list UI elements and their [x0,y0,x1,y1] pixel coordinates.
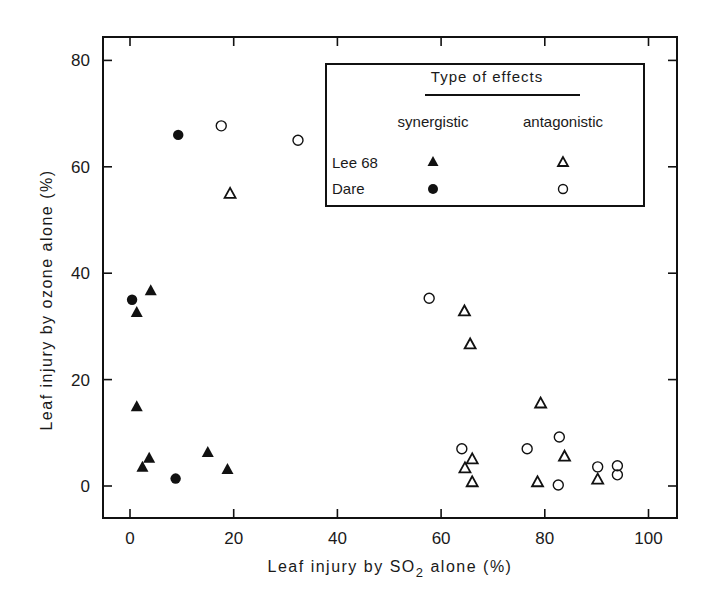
open-triangle-marker [559,451,570,461]
legend: Type of effects synergistic antagonistic… [326,64,644,206]
open-circle-marker [522,444,532,454]
filled-triangle-marker [131,400,143,411]
open-triangle-marker [532,476,543,486]
x-tick-label: 80 [535,529,554,548]
filled-triangle-marker [221,463,233,474]
filled-triangle-marker [131,306,143,317]
legend-filled-circle-icon [428,184,438,194]
filled-circle-marker [170,473,180,483]
open-triangle-marker [592,474,603,484]
open-triangle-marker [225,188,236,198]
filled-circle-marker [127,295,137,305]
open-circle-marker [424,293,434,303]
x-tick-labels: 020406080100 [125,529,662,548]
filled-triangle-marker [202,446,214,457]
y-tick-label: 60 [71,158,90,177]
filled-triangle-marker [143,452,155,463]
open-triangle-marker [459,305,470,315]
open-circle-marker [553,480,563,490]
y-tick-label: 40 [71,264,90,283]
x-tick-label: 100 [634,529,662,548]
legend-column-antagonistic: antagonistic [523,113,604,130]
scatter-chart: 020406080100 020406080 Leaf injury by SO… [0,0,712,609]
legend-row-dare: Dare [332,180,365,197]
y-tick-label: 20 [71,371,90,390]
open-circle-marker [457,444,467,454]
open-circle-marker [216,121,226,131]
y-axis-title: Leaf injury by ozone alone (%) [38,169,55,430]
y-tick-labels: 020406080 [71,51,90,496]
x-tick-label: 0 [125,529,134,548]
open-circle-marker [293,135,303,145]
x-tick-label: 40 [328,529,347,548]
open-triangle-marker [465,338,476,348]
open-triangle-marker [467,476,478,486]
open-circle-marker [593,462,603,472]
open-triangle-marker [467,453,478,463]
legend-row-lee68: Lee 68 [332,154,378,171]
open-circle-marker [554,432,564,442]
y-tick-label: 0 [81,477,90,496]
legend-title: Type of effects [431,68,543,85]
x-tick-label: 20 [224,529,243,548]
open-triangle-marker [535,398,546,408]
x-axis-title: Leaf injury by SO2 alone (%) [268,558,513,580]
filled-triangle-marker [145,284,157,295]
legend-column-synergistic: synergistic [398,113,469,130]
x-tick-label: 60 [432,529,451,548]
filled-circle-marker [173,130,183,140]
y-tick-label: 80 [71,51,90,70]
